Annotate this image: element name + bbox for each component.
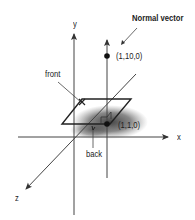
normal-vector-label: Normal vector <box>132 14 183 23</box>
diagram-svg <box>0 0 195 220</box>
normal-vector-pointer <box>123 28 137 43</box>
point-1-1-0 <box>104 121 110 127</box>
point-1-10-0 <box>104 53 110 59</box>
y-axis-label: y <box>73 20 77 29</box>
x-axis-label: x <box>177 133 181 142</box>
point-1-1-0-label: (1,1,0) <box>118 121 140 130</box>
normal-vector-pointer-arrowhead <box>121 40 125 45</box>
z-axis-label: z <box>15 194 19 203</box>
front-pointer-line <box>58 82 82 103</box>
back-label: back <box>86 150 102 159</box>
point-1-10-0-label: (1,10,0) <box>116 52 142 61</box>
front-label: front <box>45 70 60 79</box>
